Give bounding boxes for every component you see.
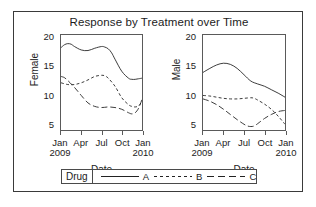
x-tick-mark — [223, 131, 224, 135]
x-tick-label: Apr — [216, 137, 231, 148]
x-tick-label: Jul — [95, 137, 107, 148]
legend-swatch-b — [153, 172, 193, 181]
x-tick-mark — [244, 131, 245, 135]
page-title: Response by Treatment over Time — [14, 16, 304, 28]
x-tick-mark — [60, 131, 61, 135]
x-tick-label: Apr — [73, 137, 88, 148]
y-tick-label: 10 — [174, 91, 196, 100]
legend-label: A — [143, 171, 149, 182]
x-tick-label: Oct — [115, 137, 130, 148]
x-tick-label: Oct — [258, 137, 273, 148]
x-axis-ticks-female: Jan2009AprJulOctJan2010 — [60, 34, 143, 154]
y-tick-label: 10 — [32, 91, 54, 100]
x-axis-ticks-male: Jan2009AprJulOctJan2010 — [202, 34, 286, 154]
x-tick-year-label: 2010 — [132, 147, 153, 158]
x-tick-mark — [286, 131, 287, 135]
figure-frame: Response by Treatment over Time Female 5… — [13, 11, 303, 192]
x-tick-label: Jul — [238, 137, 250, 148]
legend-swatch-c — [206, 172, 246, 181]
x-tick-mark — [202, 131, 203, 135]
panel-male: Male 5101520 Jan2009AprJulOctJan2010 Dat… — [160, 34, 291, 169]
legend-entry-b[interactable]: B — [151, 171, 204, 182]
y-tick-label: 5 — [174, 120, 196, 129]
x-tick-mark — [143, 131, 144, 135]
x-tick-mark — [265, 131, 266, 135]
x-tick-year-label: 2010 — [275, 147, 296, 158]
legend-label: C — [249, 171, 256, 182]
y-tick-label: 15 — [32, 61, 54, 70]
x-tick-mark — [122, 131, 123, 135]
y-tick-label: 5 — [32, 120, 54, 129]
legend: Drug ABC — [61, 169, 257, 184]
y-axis-ticks-female: 5101520 — [24, 29, 54, 136]
legend-entry-a[interactable]: A — [93, 171, 151, 182]
legend-swatch-a — [100, 172, 140, 181]
y-tick-label: 20 — [32, 32, 54, 41]
y-tick-label: 20 — [174, 32, 196, 41]
panel-female: Female 5101520 Jan2009AprJulOctJan2010 D… — [16, 34, 147, 169]
x-tick-mark — [102, 131, 103, 135]
legend-title: Drug — [62, 170, 93, 183]
legend-entries: ABC — [93, 171, 259, 182]
y-axis-ticks-male: 5101520 — [166, 29, 196, 136]
x-tick-year-label: 2009 — [49, 147, 70, 158]
legend-label: B — [196, 171, 202, 182]
x-tick-mark — [81, 131, 82, 135]
legend-entry-c[interactable]: C — [204, 171, 258, 182]
y-tick-label: 15 — [174, 61, 196, 70]
x-tick-year-label: 2009 — [191, 147, 212, 158]
